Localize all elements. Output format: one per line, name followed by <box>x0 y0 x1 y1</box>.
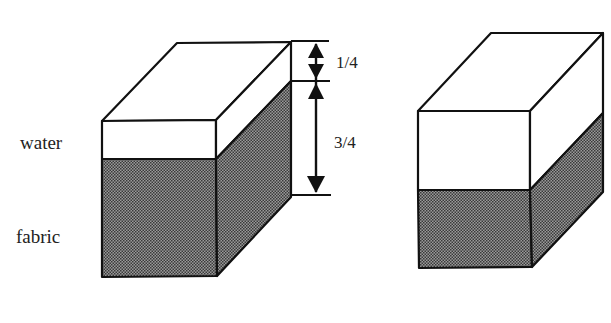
label-water: water <box>20 132 63 153</box>
dimension-markers <box>291 41 331 195</box>
dimension-label-top: 1/4 <box>336 53 358 72</box>
dimension-label-bottom: 3/4 <box>334 133 356 152</box>
arrow-down-icon <box>307 176 325 193</box>
left-block <box>102 42 291 277</box>
label-fabric: fabric <box>16 226 60 247</box>
diagram-canvas: 1/4 3/4 water fabric <box>0 0 611 323</box>
right-block-front-water <box>418 111 530 190</box>
arrow-up-icon <box>308 83 324 99</box>
arrow-down-icon <box>308 64 324 79</box>
right-block <box>418 33 603 268</box>
left-block-front-fabric <box>102 159 217 277</box>
left-block-front-water <box>102 120 216 159</box>
right-block-front-fabric <box>418 190 532 268</box>
arrow-up-icon <box>308 43 324 58</box>
